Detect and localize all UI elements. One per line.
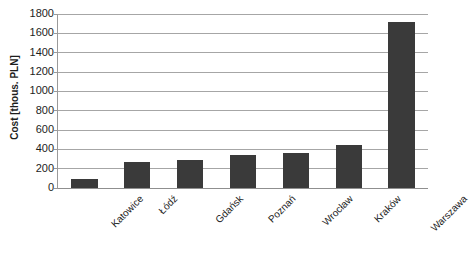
bar[interactable] — [71, 179, 97, 188]
y-axis-tick-label: 1000 — [10, 85, 54, 96]
y-axis-tickmark — [54, 188, 58, 189]
x-axis-tick-label: Łódź — [157, 193, 180, 216]
y-axis-tick-label: 1200 — [10, 66, 54, 77]
gridline — [58, 14, 428, 15]
y-axis-tick-label: 200 — [10, 163, 54, 174]
y-axis-tickmark — [54, 149, 58, 150]
bar[interactable] — [388, 22, 414, 188]
bar[interactable] — [124, 162, 150, 188]
gridline — [58, 110, 428, 111]
x-axis-tick-label: Katowice — [109, 193, 145, 229]
y-axis-tickmark — [54, 130, 58, 131]
y-axis-tick-label: 1400 — [10, 47, 54, 58]
x-axis-tick-label: Kraków — [371, 193, 402, 224]
gridline — [58, 149, 428, 150]
y-axis-tick-label: 400 — [10, 143, 54, 154]
y-axis-tick-label: 600 — [10, 124, 54, 135]
y-axis-tickmark — [54, 52, 58, 53]
x-axis-tick-label: Gdańsk — [213, 193, 245, 225]
y-axis-tickmark — [54, 72, 58, 73]
plot-area — [57, 14, 427, 188]
y-axis-tickmark — [54, 91, 58, 92]
y-axis-tickmark — [54, 110, 58, 111]
y-axis-tick-label: 0 — [10, 182, 54, 193]
y-axis-tick-label: 1800 — [10, 8, 54, 19]
gridline — [58, 91, 428, 92]
bar[interactable] — [283, 153, 309, 188]
bar[interactable] — [336, 145, 362, 188]
y-axis-tickmark — [54, 168, 58, 169]
y-axis-tick-label: 1600 — [10, 27, 54, 38]
x-axis-tick-label: Wrocław — [320, 193, 355, 228]
gridline — [58, 130, 428, 131]
chart-title — [0, 0, 445, 3]
bar[interactable] — [230, 155, 256, 188]
gridline — [58, 72, 428, 73]
y-axis-tickmark — [54, 33, 58, 34]
y-axis-tick-label: 800 — [10, 105, 54, 116]
gridline — [58, 33, 428, 34]
y-axis-tickmark — [54, 14, 58, 15]
gridline — [58, 52, 428, 53]
bar[interactable] — [177, 160, 203, 188]
x-axis-tick-label: Poznań — [266, 193, 298, 225]
x-axis-tick-label: Warszawa — [428, 193, 469, 234]
